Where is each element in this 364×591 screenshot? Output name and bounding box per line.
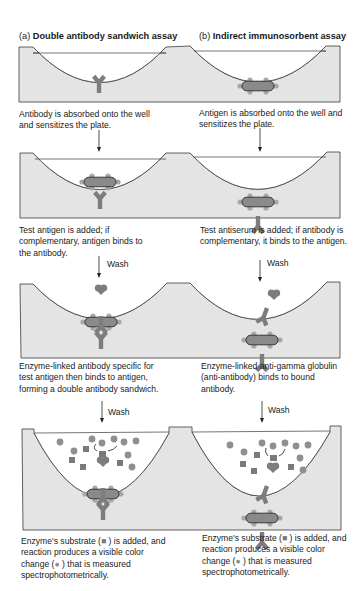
caption-b3: Enzyme-linked anti-gamma globulin (anti-… — [201, 361, 351, 395]
well-row-1 — [19, 46, 340, 102]
wash-label: Wash — [267, 258, 289, 268]
well-row-2 — [20, 152, 340, 234]
caption-b2: Test antiserum is added; if antibody is … — [200, 225, 350, 248]
well-row-4 — [22, 426, 341, 550]
caption-a3: Enzyme-linked antibody specific for test… — [19, 361, 169, 395]
caption-a4: Enzyme's substrate (■ ) is added, and re… — [21, 536, 171, 582]
wash-label: Wash — [268, 405, 290, 415]
caption-a2: Test antigen is added; if complementary,… — [19, 225, 149, 259]
well-row-3 — [20, 282, 340, 372]
caption-b4: Enzyme's substrate (■ ) is added, and re… — [202, 533, 352, 579]
caption-a1: Antibody is absorbed onto the well and s… — [19, 109, 159, 132]
assay-diagram — [0, 0, 364, 591]
wash-label: Wash — [107, 259, 129, 269]
wash-label: Wash — [108, 407, 130, 417]
caption-b1: Antigen is absorbed onto the well and se… — [199, 108, 344, 131]
